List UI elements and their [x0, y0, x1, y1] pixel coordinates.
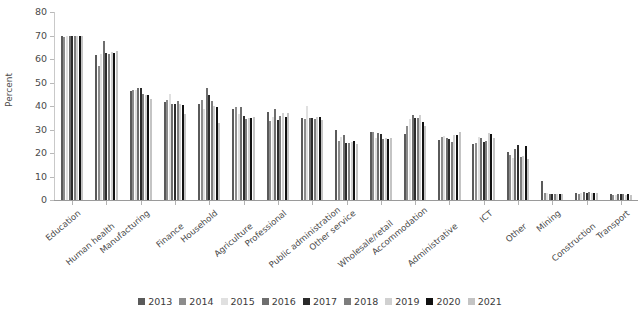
- y-axis-tick-label: 40: [22, 101, 47, 111]
- bar: [630, 195, 632, 200]
- legend-swatch-icon: [303, 298, 310, 305]
- bar: [356, 144, 358, 200]
- bar-group: [541, 12, 563, 200]
- legend-label: 2017: [313, 296, 337, 307]
- bar: [390, 138, 392, 200]
- bar-group: [61, 12, 83, 200]
- x-axis-tick-mark: [415, 201, 416, 205]
- y-axis-label: Percent: [4, 60, 14, 120]
- legend-swatch-icon: [138, 298, 145, 305]
- legend-item[interactable]: 2018: [344, 296, 378, 307]
- bar: [424, 126, 426, 200]
- bar-group: [507, 12, 529, 200]
- legend-label: 2018: [354, 296, 378, 307]
- bar-group: [267, 12, 289, 200]
- bar: [287, 113, 289, 200]
- plot-area: [55, 12, 638, 200]
- bar-group: [472, 12, 494, 200]
- legend-item[interactable]: 2015: [221, 296, 255, 307]
- y-axis-tick-label: 0: [22, 195, 47, 205]
- legend-swatch-icon: [262, 298, 269, 305]
- x-axis-tick-mark: [141, 201, 142, 205]
- bar-group: [232, 12, 254, 200]
- x-axis-tick-mark: [278, 201, 279, 205]
- bar: [184, 114, 186, 200]
- bar-group: [370, 12, 392, 200]
- legend-label: 2015: [231, 296, 255, 307]
- legend-label: 2020: [436, 296, 460, 307]
- bar: [527, 159, 529, 200]
- bar-group: [610, 12, 632, 200]
- y-axis-tick-label: 10: [22, 172, 47, 182]
- x-axis-tick-mark: [106, 201, 107, 205]
- chart-container: Percent 01020304050607080 EducationHuman…: [0, 0, 640, 320]
- x-axis-tick-mark: [621, 201, 622, 205]
- x-axis-tick-mark: [209, 201, 210, 205]
- y-axis-tick-label: 50: [22, 78, 47, 88]
- x-axis-tick-mark: [312, 201, 313, 205]
- legend-swatch-icon: [344, 298, 351, 305]
- y-axis-tick-label: 30: [22, 125, 47, 135]
- legend-swatch-icon: [468, 298, 475, 305]
- bar: [596, 193, 598, 200]
- bar: [561, 194, 563, 200]
- y-axis-tick-label: 20: [22, 148, 47, 158]
- y-axis-tick-label: 70: [22, 31, 47, 41]
- bar-group: [438, 12, 460, 200]
- bar-group: [198, 12, 220, 200]
- x-axis-tick-mark: [518, 201, 519, 205]
- x-axis-tick-mark: [587, 201, 588, 205]
- legend-label: 2019: [395, 296, 419, 307]
- legend-item[interactable]: 2013: [138, 296, 172, 307]
- bar: [150, 99, 152, 200]
- x-axis-tick-mark: [552, 201, 553, 205]
- bar: [321, 120, 323, 200]
- legend-swatch-icon: [426, 298, 433, 305]
- bar: [116, 51, 118, 200]
- bar: [218, 123, 220, 200]
- x-axis-tick-mark: [175, 201, 176, 205]
- bar: [459, 132, 461, 200]
- bar-group: [575, 12, 597, 200]
- x-axis-tick-mark: [72, 201, 73, 205]
- legend-swatch-icon: [221, 298, 228, 305]
- bar: [493, 138, 495, 200]
- legend-label: 2021: [478, 296, 502, 307]
- legend-label: 2013: [148, 296, 172, 307]
- x-axis-tick-mark: [244, 201, 245, 205]
- bar: [81, 36, 83, 200]
- chart-title: [160, 0, 500, 6]
- legend-item[interactable]: 2016: [262, 296, 296, 307]
- legend-label: 2014: [189, 296, 213, 307]
- legend-item[interactable]: 2021: [468, 296, 502, 307]
- x-axis-tick-mark: [347, 201, 348, 205]
- legend-item[interactable]: 2020: [426, 296, 460, 307]
- bar-group: [130, 12, 152, 200]
- legend-label: 2016: [272, 296, 296, 307]
- bar-group: [335, 12, 357, 200]
- x-axis-tick-mark: [449, 201, 450, 205]
- bar-group: [164, 12, 186, 200]
- legend-item[interactable]: 2014: [179, 296, 213, 307]
- bar-group: [95, 12, 117, 200]
- y-axis-tick-label: 60: [22, 54, 47, 64]
- chart-legend: 201320142015201620172018201920202021: [0, 296, 640, 307]
- bar-group: [301, 12, 323, 200]
- x-axis-tick-mark: [381, 201, 382, 205]
- legend-swatch-icon: [385, 298, 392, 305]
- legend-item[interactable]: 2017: [303, 296, 337, 307]
- bar-group: [404, 12, 426, 200]
- legend-item[interactable]: 2019: [385, 296, 419, 307]
- legend-swatch-icon: [179, 298, 186, 305]
- y-axis-tick-label: 80: [22, 7, 47, 17]
- bar: [253, 117, 255, 200]
- x-axis-tick-mark: [484, 201, 485, 205]
